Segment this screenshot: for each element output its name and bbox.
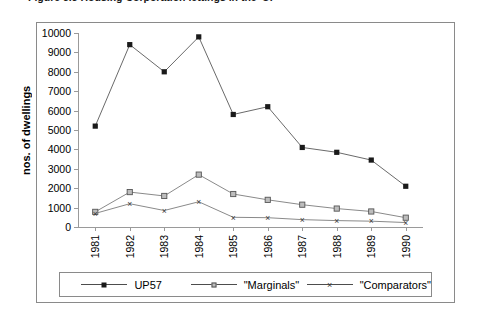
data-point-marker <box>265 104 270 109</box>
x-marker-icon: × <box>327 280 332 289</box>
figure-caption: Figure 5.3 Housing Corporation lettings … <box>28 0 458 3</box>
legend-label-1: "Marginals" <box>244 279 300 291</box>
data-point-marker <box>265 197 270 202</box>
data-point-marker: × <box>196 197 201 207</box>
y-tick-label: 1000 <box>48 202 71 213</box>
y-tick-label: 9000 <box>48 47 71 58</box>
y-tick-label: 4000 <box>48 144 71 155</box>
data-point-marker <box>231 112 236 117</box>
y-tick-label: 10000 <box>42 28 71 39</box>
data-point-marker <box>93 124 98 129</box>
data-point-marker <box>127 42 132 47</box>
plot-area: 0100020003000400050006000700080009000100… <box>78 33 423 227</box>
data-point-marker: × <box>300 215 305 225</box>
data-point-marker: × <box>162 206 167 216</box>
data-point-marker <box>334 206 339 211</box>
data-point-marker <box>369 209 374 214</box>
y-axis-title: nos. of dwellings <box>20 33 32 227</box>
series-2: ×××××××××× <box>93 197 409 228</box>
x-tick-label: 1983 <box>159 235 170 258</box>
y-tick-label: 5000 <box>48 125 71 136</box>
series-line <box>95 175 406 218</box>
data-point-marker <box>196 172 201 177</box>
y-tick-label: 6000 <box>48 105 71 116</box>
open-square-icon <box>211 282 216 287</box>
x-tick-mark <box>199 227 200 231</box>
legend-item-0[interactable]: UP57 <box>60 279 183 291</box>
x-tick-label: 1990 <box>401 235 412 258</box>
legend-swatch-2: × <box>307 279 353 291</box>
data-point-marker <box>127 189 132 194</box>
legend-item-2[interactable]: × "Comparators" <box>307 279 431 291</box>
y-tick-label: 2000 <box>48 183 71 194</box>
legend-label-2: "Comparators" <box>360 279 431 291</box>
data-point-marker <box>196 34 201 39</box>
x-tick-mark <box>337 227 338 231</box>
filled-square-icon <box>102 282 107 287</box>
data-point-marker: × <box>334 216 339 226</box>
y-tick-mark <box>74 227 78 228</box>
legend-swatch-0 <box>81 279 127 291</box>
data-point-marker: × <box>93 209 98 219</box>
data-point-marker <box>231 191 236 196</box>
data-point-marker <box>300 202 305 207</box>
y-tick-label: 8000 <box>48 67 71 78</box>
data-point-marker <box>369 157 374 162</box>
data-point-marker: × <box>231 213 236 223</box>
data-point-marker <box>334 150 339 155</box>
x-tick-label: 1984 <box>194 235 205 258</box>
x-tick-label: 1981 <box>90 235 101 258</box>
legend-swatch-1 <box>191 279 237 291</box>
x-tick-label: 1982 <box>125 235 136 258</box>
x-tick-mark <box>302 227 303 231</box>
series-0 <box>93 34 409 189</box>
x-tick-label: 1987 <box>297 235 308 258</box>
y-tick-label: 7000 <box>48 86 71 97</box>
x-tick-mark <box>164 227 165 231</box>
series-layer: ×××××××××× <box>78 33 423 227</box>
x-tick-label: 1985 <box>228 235 239 258</box>
x-tick-mark <box>95 227 96 231</box>
x-tick-label: 1988 <box>332 235 343 258</box>
data-point-marker: × <box>265 213 270 223</box>
series-1 <box>93 172 409 220</box>
data-point-marker <box>403 184 408 189</box>
chart-legend: UP57 "Marginals" × "Comparators" <box>59 272 432 297</box>
data-point-marker <box>162 193 167 198</box>
data-point-marker <box>162 69 167 74</box>
data-point-marker: × <box>403 218 408 228</box>
data-point-marker: × <box>127 199 132 209</box>
x-tick-label: 1986 <box>263 235 274 258</box>
figure-root: Figure 5.3 Housing Corporation lettings … <box>0 0 487 322</box>
x-tick-mark <box>130 227 131 231</box>
x-tick-label: 1989 <box>366 235 377 258</box>
legend-item-1[interactable]: "Marginals" <box>183 279 306 291</box>
x-tick-mark <box>233 227 234 231</box>
x-tick-mark <box>371 227 372 231</box>
y-tick-label: 0 <box>65 222 71 233</box>
series-line <box>95 202 406 223</box>
legend-label-0: UP57 <box>134 279 162 291</box>
y-tick-label: 3000 <box>48 164 71 175</box>
x-tick-mark <box>268 227 269 231</box>
series-line <box>95 37 406 186</box>
data-point-marker <box>300 145 305 150</box>
data-point-marker: × <box>369 216 374 226</box>
